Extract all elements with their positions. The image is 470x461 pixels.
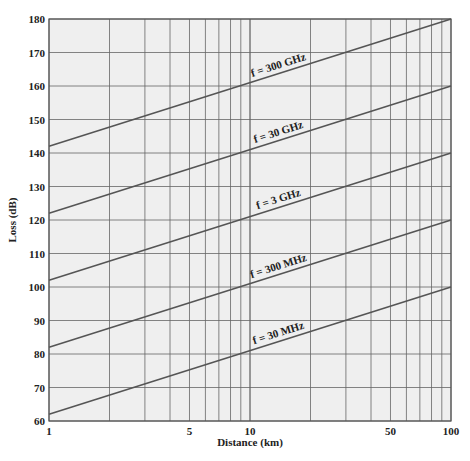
y-tick: 100 — [29, 281, 46, 293]
y-tick: 70 — [34, 382, 46, 394]
y-tick: 110 — [29, 248, 45, 260]
y-tick: 90 — [34, 315, 46, 327]
y-tick: 140 — [29, 147, 46, 159]
x-tick: 1 — [46, 425, 52, 437]
grid — [49, 19, 451, 421]
y-axis-label: Loss (dB) — [6, 197, 19, 242]
x-tick: 50 — [385, 425, 397, 437]
y-tick: 130 — [29, 181, 46, 193]
y-tick: 180 — [29, 13, 46, 25]
y-tick: 150 — [29, 114, 46, 126]
y-tick-labels: 60708090100110120130140150160170180 — [29, 13, 46, 427]
y-tick: 160 — [29, 80, 46, 92]
chart: f = 30 MHzf = 300 MHzf = 3 GHzf = 30 GHz… — [0, 0, 470, 461]
y-tick: 60 — [34, 415, 46, 427]
y-tick: 80 — [34, 348, 46, 360]
x-tick: 5 — [187, 425, 193, 437]
y-tick: 120 — [29, 214, 46, 226]
y-tick: 170 — [29, 47, 46, 59]
x-tick: 100 — [443, 425, 460, 437]
x-axis-label: Distance (km) — [217, 436, 283, 449]
